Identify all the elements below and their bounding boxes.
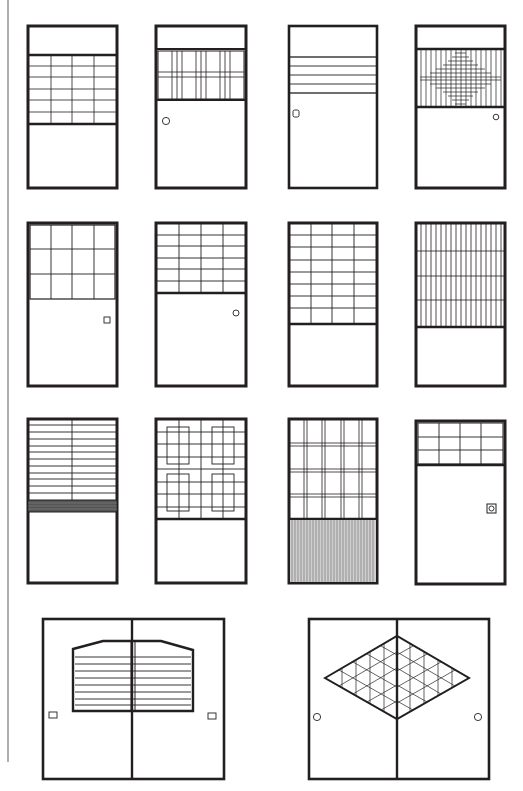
handle-circle-icon xyxy=(474,713,481,720)
door-patterns-figure xyxy=(0,0,523,791)
door-d7 xyxy=(289,223,377,386)
door-d1 xyxy=(28,26,117,188)
door-d2 xyxy=(156,26,246,188)
ribbed-lower-panel xyxy=(290,520,376,582)
handle-square-icon xyxy=(293,110,299,117)
handle-square-ring-icon xyxy=(487,504,496,513)
door-d11 xyxy=(289,419,377,583)
door-d3 xyxy=(289,26,377,188)
door-d10 xyxy=(156,419,246,583)
door-d14 xyxy=(309,619,489,779)
handle-circle-icon xyxy=(313,713,320,720)
door-d12 xyxy=(416,421,505,584)
door-d5 xyxy=(28,223,117,386)
door-d8 xyxy=(416,223,505,386)
handle-circle-icon xyxy=(493,114,499,120)
handle-rect-icon xyxy=(208,713,216,719)
door-d13 xyxy=(43,619,224,779)
handle-circle-icon xyxy=(233,310,239,316)
handle-square-icon xyxy=(104,317,110,323)
door-d9 xyxy=(28,419,117,583)
handle-circle-icon xyxy=(162,117,169,124)
handle-rect-icon xyxy=(49,712,57,718)
door-d4 xyxy=(416,26,505,188)
door-d6 xyxy=(156,223,246,386)
